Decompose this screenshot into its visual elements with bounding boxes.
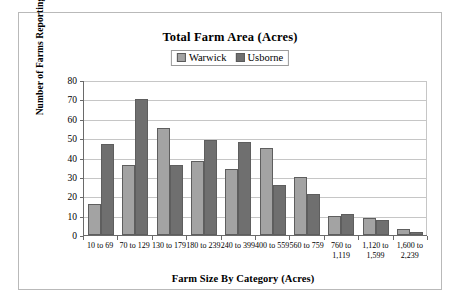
x-axis-category-label: 760 to 1,119 [324,241,358,261]
bar-group [358,81,392,235]
legend-label-usborne: Usborne [248,52,284,63]
bar-usborne[interactable] [170,165,183,235]
bar-warwick[interactable] [328,216,341,235]
x-tick-mark [152,236,153,240]
x-axis-tickmarks [83,236,427,240]
bar-group [153,81,187,235]
x-axis-category-label: 1,600 to 2,239 [393,241,427,261]
bar-warwick[interactable] [191,161,204,235]
x-axis-category-label: 10 to 69 [83,241,117,261]
x-tick-mark [255,236,256,240]
y-axis-title: Number of Farms Reporting [35,0,45,131]
chart-legend: Warwick Usborne [171,50,289,66]
bar-group [290,81,324,235]
bar-warwick[interactable] [157,128,170,235]
x-axis-title: Farm Size By Category (Acres) [57,273,429,284]
x-tick-mark [358,236,359,240]
bar-group [118,81,152,235]
y-tick-label: 10 [68,212,78,222]
x-axis-category-label: 400 to 559 [255,241,289,261]
x-axis-category-label: 130 to 179 [152,241,186,261]
bar-usborne[interactable] [135,99,148,235]
y-tick-label: 20 [68,192,78,202]
y-axis-ticks: 01020304050607080 [57,81,79,236]
legend-entry-warwick[interactable]: Warwick [177,52,227,63]
x-tick-mark [83,236,84,240]
x-axis-labels: 10 to 6970 to 129130 to 179180 to 239240… [83,241,427,261]
bars-layer [84,81,427,235]
legend-swatch-usborne [236,53,245,62]
bar-group [84,81,118,235]
bar-group [187,81,221,235]
x-tick-mark [427,236,428,240]
x-axis-category-label: 240 to 399 [221,241,255,261]
bar-warwick[interactable] [397,229,410,235]
bar-usborne[interactable] [273,185,286,235]
bar-usborne[interactable] [376,220,389,236]
x-axis-category-label: 70 to 129 [117,241,151,261]
bar-usborne[interactable] [341,214,354,235]
bar-warwick[interactable] [260,148,273,235]
x-tick-mark [289,236,290,240]
bar-warwick[interactable] [122,165,135,235]
bar-warwick[interactable] [363,218,376,235]
chart-title: Total Farm Area (Acres) [19,30,441,45]
bar-warwick[interactable] [88,204,101,235]
y-tick-label: 40 [68,154,78,164]
x-tick-mark [393,236,394,240]
bar-group [393,81,427,235]
plot-wrapper: Number of Farms Reporting 01020304050607… [57,81,429,291]
y-tick-label: 60 [68,115,78,125]
y-tick-label: 30 [68,173,78,183]
x-tick-mark [117,236,118,240]
x-axis-category-label: 1,120 to 1,599 [358,241,392,261]
x-tick-mark [186,236,187,240]
bar-warwick[interactable] [225,169,238,235]
chart-frame: Total Farm Area (Acres) Warwick Usborne … [18,12,442,290]
legend-swatch-warwick [177,53,186,62]
bar-usborne[interactable] [307,194,320,235]
x-axis-category-label: 560 to 759 [289,241,323,261]
x-tick-mark [324,236,325,240]
bar-group [255,81,289,235]
plot-area [83,81,427,236]
bar-usborne[interactable] [410,232,423,235]
y-tick-label: 70 [68,95,78,105]
bar-warwick[interactable] [294,177,307,235]
y-tick-label: 80 [68,76,78,86]
bar-usborne[interactable] [204,140,217,235]
x-tick-mark [221,236,222,240]
bar-group [221,81,255,235]
y-tick-label: 0 [72,231,77,241]
legend-label-warwick: Warwick [189,52,227,63]
legend-entry-usborne[interactable]: Usborne [236,52,284,63]
bar-group [324,81,358,235]
y-tick-label: 50 [68,134,78,144]
bar-usborne[interactable] [238,142,251,235]
x-axis-category-label: 180 to 239 [186,241,220,261]
bar-usborne[interactable] [101,144,114,235]
